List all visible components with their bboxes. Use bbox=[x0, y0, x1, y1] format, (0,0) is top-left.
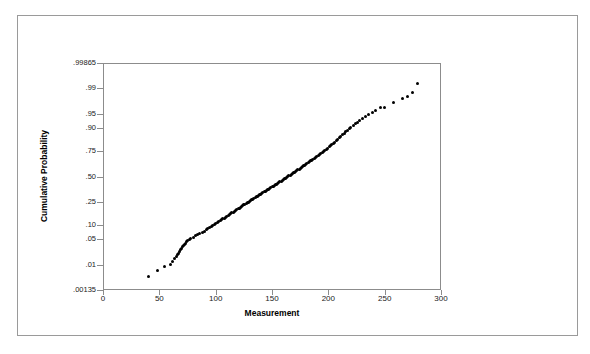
y-tick-mark bbox=[97, 177, 103, 178]
y-tick-label: .01 bbox=[86, 261, 96, 269]
data-point bbox=[392, 101, 395, 104]
y-tick-mark bbox=[97, 239, 103, 240]
y-tick-mark bbox=[97, 114, 103, 115]
y-tick-label: .75 bbox=[86, 147, 96, 155]
x-tick-label: 100 bbox=[209, 294, 222, 303]
x-tick-label: 300 bbox=[434, 294, 447, 303]
data-point bbox=[147, 275, 150, 278]
x-tick-mark bbox=[159, 290, 160, 295]
y-tick-mark bbox=[97, 265, 103, 266]
data-point bbox=[169, 263, 172, 266]
y-tick-label: .05 bbox=[86, 235, 96, 243]
y-tick-mark bbox=[97, 88, 103, 89]
y-tick-mark bbox=[97, 151, 103, 152]
y-tick-label: .00135 bbox=[73, 286, 96, 294]
x-axis-title: Measurement bbox=[103, 308, 441, 318]
y-tick-label: .90 bbox=[86, 124, 96, 132]
plot-data-area bbox=[103, 63, 441, 290]
y-tick-mark bbox=[97, 63, 103, 64]
data-point bbox=[411, 91, 414, 94]
data-point bbox=[383, 106, 386, 109]
data-point bbox=[379, 106, 382, 109]
data-point bbox=[416, 82, 419, 85]
x-tick-mark bbox=[385, 290, 386, 295]
x-tick-label: 250 bbox=[378, 294, 391, 303]
x-tick-label: 150 bbox=[265, 294, 278, 303]
y-tick-label: .99865 bbox=[73, 59, 96, 67]
y-tick-mark bbox=[97, 225, 103, 226]
data-point bbox=[401, 97, 404, 100]
data-point bbox=[406, 95, 409, 98]
y-tick-label: .50 bbox=[86, 173, 96, 181]
y-axis-tick-labels: .00135.01.05.10.25.50.75.90.95.99.99865 bbox=[47, 0, 96, 354]
x-tick-label: 0 bbox=[101, 294, 105, 303]
data-point bbox=[371, 111, 374, 114]
x-tick-mark bbox=[216, 290, 217, 295]
x-tick-mark bbox=[103, 290, 104, 295]
y-tick-mark bbox=[97, 202, 103, 203]
y-tick-label: .99 bbox=[86, 85, 96, 93]
x-tick-mark bbox=[441, 290, 442, 295]
y-tick-label: .95 bbox=[86, 111, 96, 119]
data-point bbox=[367, 113, 370, 116]
x-tick-label: 200 bbox=[322, 294, 335, 303]
data-point bbox=[163, 265, 166, 268]
y-tick-mark bbox=[97, 128, 103, 129]
data-point bbox=[171, 260, 174, 263]
data-point bbox=[156, 269, 159, 272]
y-axis-title: Cumulative Probability bbox=[39, 130, 49, 222]
probability-plot-figure: .00135.01.05.10.25.50.75.90.95.99.99865 … bbox=[0, 0, 590, 354]
x-tick-mark bbox=[328, 290, 329, 295]
x-tick-label: 50 bbox=[155, 294, 164, 303]
x-tick-mark bbox=[272, 290, 273, 295]
y-tick-label: .10 bbox=[86, 221, 96, 229]
data-point bbox=[374, 109, 377, 112]
y-tick-label: .25 bbox=[86, 198, 96, 206]
